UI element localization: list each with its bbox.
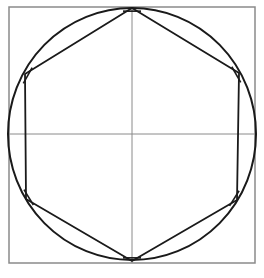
diagram-canvas: Hexagon inscribed in a circle inside a s… [0,0,264,278]
hexagon-construction-figure [0,0,264,278]
